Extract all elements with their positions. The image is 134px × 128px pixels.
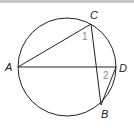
point-c-label: C [90, 9, 98, 21]
chord-ac [18, 24, 91, 67]
point-a-label: A [4, 61, 12, 73]
point-d-label: D [119, 62, 127, 74]
point-b-label: B [101, 108, 108, 120]
circle-diagram: A C D B 1 2 [0, 0, 134, 128]
chord-cb [91, 24, 101, 105]
angle-2-label: 2 [103, 70, 109, 81]
angle-1-label: 1 [82, 31, 88, 42]
